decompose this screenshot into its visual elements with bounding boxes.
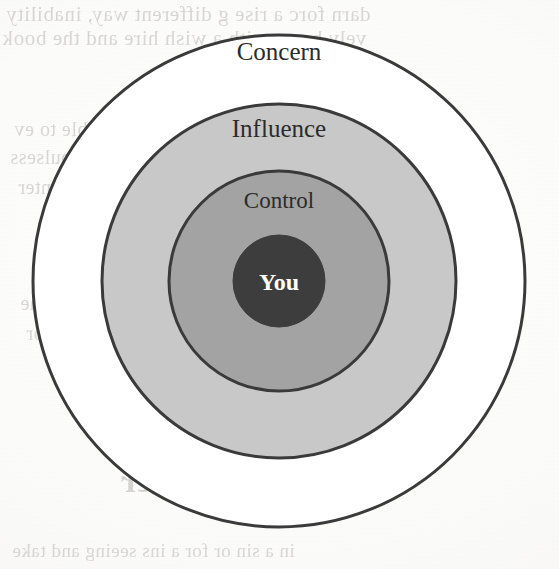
concentric-circles-diagram: Concern Influence Control You [0,0,559,569]
scanned-page: darn forc a rise g different way, inabil… [0,0,559,569]
ring-label-concern: Concern [237,38,322,65]
ring-label-control: Control [244,188,314,213]
ring-label-influence: Influence [232,115,326,142]
ring-label-you: You [259,269,299,295]
